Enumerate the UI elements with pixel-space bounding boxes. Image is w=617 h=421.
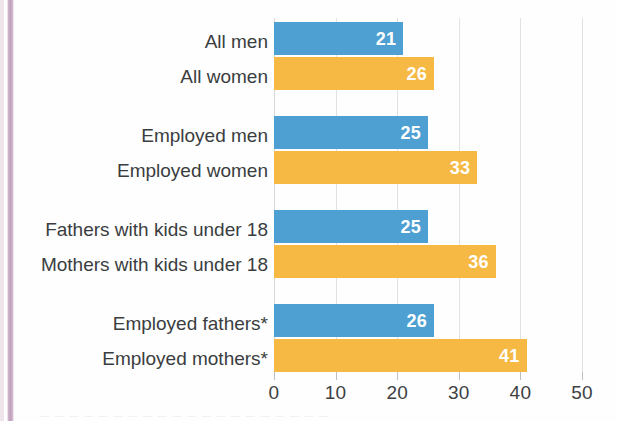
x-axis-tick-mark-10: [336, 372, 337, 380]
bar: 25: [274, 116, 428, 149]
gridline-30: [459, 18, 460, 372]
bar-chart: All menAll womenEmployed menEmployed wom…: [0, 0, 617, 421]
x-axis-tick-label: 10: [325, 382, 347, 404]
bar: 41: [274, 339, 527, 372]
bar: 25: [274, 210, 428, 243]
x-axis-tick-mark-0: [274, 372, 275, 380]
gridline-40: [520, 18, 521, 372]
x-axis-tick-label: 30: [448, 382, 470, 404]
category-label: Employed mothers*: [0, 349, 268, 368]
category-label: Employed women: [0, 161, 268, 180]
category-label: Employed men: [0, 126, 268, 145]
x-axis-tick-mark-40: [520, 372, 521, 380]
category-label: Employed fathers*: [0, 314, 268, 333]
x-axis-tick-mark-20: [397, 372, 398, 380]
bar-value-label: 26: [407, 312, 435, 330]
x-axis-tick-label: 50: [571, 382, 593, 404]
bar-value-label: 25: [400, 124, 428, 142]
category-label: Mothers with kids under 18: [0, 255, 268, 274]
x-axis-tick-mark-30: [459, 372, 460, 380]
bar-value-label: 21: [376, 30, 404, 48]
page-bleed-artifact: — — — — — — — — — — — — — — — — — — — —: [40, 411, 580, 420]
x-axis-tick-label: 40: [510, 382, 532, 404]
bar-value-label: 33: [450, 159, 478, 177]
category-label: All men: [0, 32, 268, 51]
plot-area: 2126253325362641 01020304050: [274, 0, 582, 372]
x-axis-tick-label: 0: [269, 382, 280, 404]
bar: 26: [274, 57, 434, 90]
bar-value-label: 41: [499, 347, 527, 365]
bar: 36: [274, 245, 496, 278]
x-axis-tick-mark-50: [582, 372, 583, 380]
category-label: Fathers with kids under 18: [0, 220, 268, 239]
bar-value-label: 36: [468, 253, 496, 271]
bar: 21: [274, 22, 403, 55]
category-label: All women: [0, 67, 268, 86]
bar-value-label: 25: [400, 218, 428, 236]
bar: 33: [274, 151, 477, 184]
gridline-50: [582, 18, 583, 372]
x-axis-tick-label: 20: [386, 382, 408, 404]
bar: 26: [274, 304, 434, 337]
bar-value-label: 26: [407, 65, 435, 83]
